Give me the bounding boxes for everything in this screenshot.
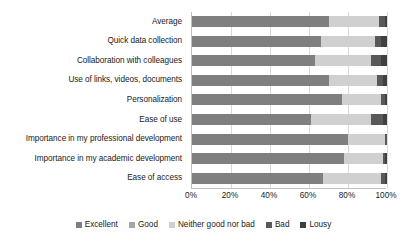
bar-row [192, 173, 387, 184]
bar-segment-neither-good-nor-bad [321, 36, 376, 47]
plot-area [191, 12, 387, 188]
bar-row [192, 134, 387, 145]
bar-segment-excellent [192, 153, 344, 164]
bar-row [192, 16, 387, 27]
legend-label: Good [138, 220, 158, 230]
legend-swatch-icon [266, 222, 272, 228]
x-axis-tick-labels: 0%20%40%60%80%100% [191, 190, 386, 204]
category-label-average: Average [0, 17, 188, 27]
bar-segment-excellent [192, 16, 329, 27]
chart-legend: ExcellentGoodNeither good nor badBadLous… [0, 216, 407, 234]
legend-item-excellent[interactable]: Excellent [76, 220, 118, 230]
legend-item-good[interactable]: Good [129, 220, 158, 230]
bar-segment-neither-good-nor-bad [315, 55, 372, 66]
bar-segment-excellent [192, 94, 342, 105]
bar-row [192, 55, 387, 66]
x-tick-label: 40% [261, 190, 277, 202]
x-tick-label: 80% [339, 190, 355, 202]
x-tick-label: 60% [300, 190, 316, 202]
bar-segment-excellent [192, 75, 329, 86]
bar-segment-neither-good-nor-bad [344, 153, 383, 164]
bar-segment-lousy [385, 173, 387, 184]
x-tick-label: 20% [222, 190, 238, 202]
legend-item-neither-good-nor-bad[interactable]: Neither good nor bad [169, 220, 255, 230]
bar-segment-excellent [192, 134, 348, 145]
x-tick-label: 100% [376, 190, 397, 202]
legend-label: Neither good nor bad [178, 220, 255, 230]
category-label-ease-of-use: Ease of use [0, 115, 188, 125]
bar-row [192, 94, 387, 105]
category-label-personalization: Personalization [0, 95, 188, 105]
x-tick-label: 0% [185, 190, 197, 202]
bar-segment-excellent [192, 114, 311, 125]
bar-segment-bad [371, 55, 381, 66]
bar-segment-bad [385, 134, 387, 145]
bar-segment-lousy [383, 75, 387, 86]
bar-segment-lousy [381, 36, 387, 47]
legend-label: Lousy [309, 220, 331, 230]
y-axis-category-labels: Average Quick data collection Collaborat… [0, 12, 188, 188]
bar-segment-excellent [192, 173, 323, 184]
bar-row [192, 75, 387, 86]
legend-swatch-icon [169, 222, 175, 228]
bar-segment-lousy [381, 55, 387, 66]
bar-segment-neither-good-nor-bad [348, 134, 385, 145]
bar-segment-excellent [192, 36, 321, 47]
bar-row [192, 114, 387, 125]
bar-segment-bad [371, 114, 383, 125]
legend-swatch-icon [76, 222, 82, 228]
bar-segment-neither-good-nor-bad [342, 94, 381, 105]
legend-swatch-icon [129, 222, 135, 228]
gridline-100 [387, 12, 388, 188]
bar-segment-neither-good-nor-bad [329, 75, 378, 86]
category-label-ease-of-access: Ease of access [0, 173, 188, 183]
plot-wrapper: Average Quick data collection Collaborat… [0, 0, 407, 196]
category-label-collaboration: Collaboration with colleagues [0, 56, 188, 66]
bar-segment-lousy [385, 153, 387, 164]
legend-item-bad[interactable]: Bad [266, 220, 290, 230]
legend-label: Bad [275, 220, 290, 230]
bar-segment-lousy [383, 114, 387, 125]
bar-series-container [192, 12, 387, 188]
stacked-bar-chart: Average Quick data collection Collaborat… [0, 0, 407, 237]
legend-item-lousy[interactable]: Lousy [300, 220, 331, 230]
bar-segment-lousy [385, 16, 387, 27]
category-label-quick-data-collection: Quick data collection [0, 36, 188, 46]
bar-segment-neither-good-nor-bad [323, 173, 382, 184]
category-label-use-of-links: Use of links, videos, documents [0, 75, 188, 85]
bar-segment-lousy [385, 94, 387, 105]
category-label-importance-professional: Importance in my professional developmen… [0, 134, 188, 144]
bar-row [192, 153, 387, 164]
legend-swatch-icon [300, 222, 306, 228]
bar-row [192, 36, 387, 47]
legend-label: Excellent [85, 220, 118, 230]
bar-segment-neither-good-nor-bad [329, 16, 380, 27]
x-axis-line [191, 188, 386, 189]
bar-segment-neither-good-nor-bad [311, 114, 371, 125]
bar-segment-excellent [192, 55, 315, 66]
category-label-importance-academic: Importance in my academic development [0, 154, 188, 164]
